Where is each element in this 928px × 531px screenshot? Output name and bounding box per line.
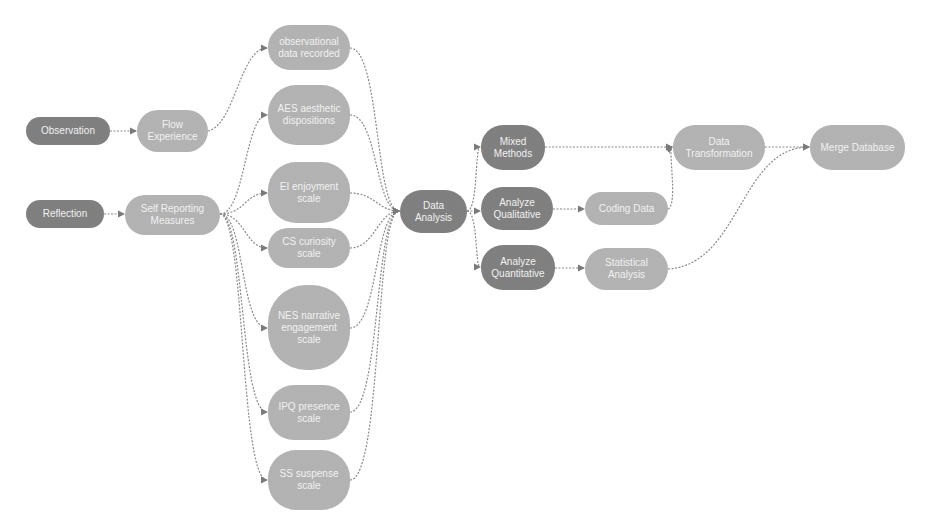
edge-coding-transform	[668, 147, 673, 209]
edge-da-quant	[467, 211, 480, 267]
node-mixed-methods[interactable]: Mixed Methods	[481, 125, 545, 170]
edge-flow-observational	[208, 48, 267, 131]
node-ipq[interactable]: IPQ presence scale	[268, 385, 350, 440]
node-nes[interactable]: NES narrative engagement scale	[268, 285, 350, 370]
edge-selfreport-aes	[220, 115, 267, 214]
node-analyze-quantitative[interactable]: Analyze Quantitative	[481, 245, 555, 290]
edge-ei-da	[350, 193, 399, 211]
node-flow-experience[interactable]: Flow Experience	[137, 110, 208, 152]
edge-da-mixed	[467, 147, 480, 211]
node-ei[interactable]: EI enjoyment scale	[268, 162, 350, 223]
edge-ss-da	[350, 211, 399, 480]
edges-layer	[0, 0, 928, 531]
node-data-transformation[interactable]: Data Transformation	[673, 125, 765, 170]
node-analyze-qualitative[interactable]: Analyze Qualitative	[481, 187, 553, 230]
node-data-analysis[interactable]: Data Analysis	[400, 190, 467, 233]
edge-aes-da	[350, 115, 399, 211]
edge-nes-da	[350, 211, 399, 328]
node-self-reporting-measures[interactable]: Self Reporting Measures	[125, 195, 220, 235]
edge-selfreport-nes	[220, 214, 267, 328]
node-aes[interactable]: AES aesthetic dispositions	[268, 85, 350, 145]
node-coding-data[interactable]: Coding Data	[585, 192, 668, 225]
edge-selfreport-ipq	[220, 214, 267, 412]
edge-observational-da	[350, 48, 399, 211]
edge-cs-da	[350, 211, 399, 248]
node-merge-database[interactable]: Merge Database	[810, 125, 905, 170]
node-cs[interactable]: CS curiosity scale	[268, 228, 350, 268]
node-statistical-analysis[interactable]: Statistical Analysis	[585, 248, 668, 290]
node-reflection[interactable]: Reflection	[26, 200, 104, 228]
node-observation[interactable]: Observation	[26, 117, 110, 145]
edge-selfreport-ss	[220, 214, 267, 480]
node-ss[interactable]: SS suspense scale	[268, 450, 350, 510]
edge-ipq-da	[350, 211, 399, 412]
node-observational-data-recorded[interactable]: observational data recorded	[268, 25, 350, 70]
